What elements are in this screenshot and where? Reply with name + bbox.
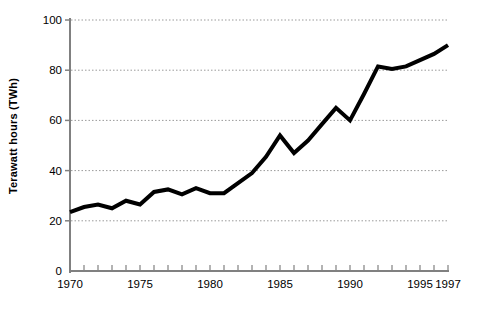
x-axis-tick-label: 1970 — [57, 278, 83, 290]
y-axis-tick-label: 40 — [26, 165, 62, 177]
plot-area — [0, 0, 479, 316]
y-axis-tick-label: 20 — [26, 215, 62, 227]
x-axis-tick-label: 1995 — [407, 278, 433, 290]
x-axis-tick-label: 1975 — [127, 278, 153, 290]
x-axis-tick-label: 1985 — [267, 278, 293, 290]
y-axis-tick-label: 80 — [26, 64, 62, 76]
y-axis-tick-label: 60 — [26, 114, 62, 126]
x-axis-tick-label: 1980 — [197, 278, 223, 290]
y-axis-tick-label: 100 — [26, 14, 62, 26]
x-axis-tick-label: 1997 — [435, 278, 461, 290]
chart-figure: Terawatt hours (TWh) 020406080100 197019… — [0, 0, 479, 316]
data-series-line — [70, 45, 448, 212]
y-axis-tick-label: 0 — [26, 265, 62, 277]
gridlines — [71, 20, 448, 221]
x-axis-tick-label: 1990 — [337, 278, 363, 290]
